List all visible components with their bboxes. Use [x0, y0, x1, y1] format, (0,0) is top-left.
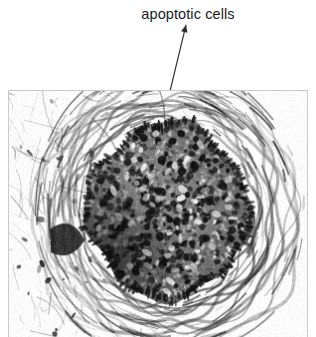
figure-root: apoptotic cells	[0, 0, 316, 337]
micrograph-image	[9, 91, 307, 337]
micrograph-panel	[8, 90, 308, 337]
annotation-label-apoptotic-cells: apoptotic cells	[0, 6, 316, 23]
